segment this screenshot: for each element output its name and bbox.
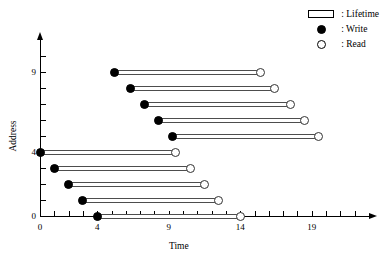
write-marker — [93, 212, 102, 221]
write-marker — [64, 180, 73, 189]
open-circle-icon — [304, 40, 338, 49]
x-axis-tick — [83, 211, 84, 216]
y-axis-tick — [41, 168, 46, 169]
lifetime-bar — [144, 102, 290, 107]
y-axis-tick — [41, 200, 46, 201]
x-axis-tick — [269, 211, 270, 216]
x-axis-tick — [340, 211, 341, 216]
write-marker — [36, 148, 45, 157]
lifetime-box-icon — [304, 10, 338, 18]
read-marker — [186, 164, 195, 173]
lifetime-bar — [173, 134, 319, 139]
y-axis-tick — [41, 216, 46, 217]
lifetime-bar — [130, 86, 274, 91]
read-marker — [286, 100, 295, 109]
y-axis-tick-label: 4 — [22, 148, 36, 157]
x-axis-tick-label: 9 — [166, 223, 171, 232]
write-marker — [168, 132, 177, 141]
lifetime-bar — [54, 166, 190, 171]
lifetime-bar — [159, 118, 305, 123]
y-axis-tick — [41, 136, 46, 137]
lifetime-bar — [114, 70, 260, 75]
read-marker — [256, 68, 265, 77]
legend-item-lifetime: : Lifetime — [304, 8, 379, 20]
x-axis-tick-label: 4 — [95, 223, 100, 232]
y-axis-tick — [41, 104, 46, 105]
legend-item-write: : Write — [304, 23, 379, 35]
y-axis-tick — [41, 88, 46, 89]
x-axis-tick — [54, 211, 55, 216]
read-marker — [270, 84, 279, 93]
chart-legend: : Lifetime : Write : Read — [304, 8, 379, 50]
legend-label-read: : Read — [341, 39, 366, 49]
lifetime-bar — [97, 214, 240, 219]
write-marker — [126, 84, 135, 93]
x-axis-tick — [69, 211, 70, 216]
x-axis-arrow — [369, 213, 377, 219]
lifetime-bar — [83, 198, 219, 203]
y-axis-tick-label: 0 — [22, 212, 36, 221]
read-marker — [300, 116, 309, 125]
x-axis-tick — [355, 211, 356, 216]
x-axis-tick — [326, 211, 327, 216]
x-axis-tick — [283, 211, 284, 216]
y-axis-tick — [41, 72, 46, 73]
filled-circle-icon — [304, 25, 338, 34]
y-axis-title: Address — [8, 111, 18, 161]
legend-item-read: : Read — [304, 38, 379, 50]
x-axis-tick-label: 19 — [307, 223, 316, 232]
lifetime-bar — [40, 150, 176, 155]
read-marker — [214, 196, 223, 205]
y-axis-tick — [41, 120, 46, 121]
read-marker — [314, 132, 323, 141]
read-marker — [171, 148, 180, 157]
write-marker — [140, 100, 149, 109]
write-marker — [110, 68, 119, 77]
x-axis-tick — [255, 211, 256, 216]
write-marker — [154, 116, 163, 125]
x-axis-tick — [297, 211, 298, 216]
x-axis-title: Time — [169, 241, 189, 251]
x-axis-tick-label: 0 — [38, 223, 43, 232]
x-axis-tick-label: 14 — [236, 223, 245, 232]
y-axis-line — [40, 40, 41, 217]
x-axis-tick — [312, 211, 313, 216]
write-marker — [50, 164, 59, 173]
lifetime-bar — [69, 182, 205, 187]
y-axis-tick-label: 9 — [22, 68, 36, 77]
read-marker — [236, 212, 245, 221]
y-axis-tick — [41, 56, 46, 57]
y-axis-arrow — [37, 32, 43, 40]
y-axis-tick — [41, 184, 46, 185]
legend-label-write: : Write — [341, 24, 367, 34]
read-marker — [200, 180, 209, 189]
legend-label-lifetime: : Lifetime — [341, 9, 379, 19]
write-marker — [78, 196, 87, 205]
lifetime-chart: 0491419049 : Lifetime : Write : Read Tim… — [0, 0, 387, 259]
